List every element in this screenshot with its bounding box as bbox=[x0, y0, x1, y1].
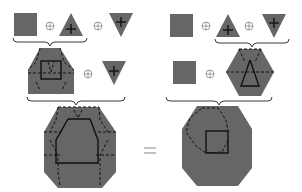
brace-right-row1 bbox=[215, 39, 289, 47]
triangle-down-shape-right bbox=[262, 14, 286, 38]
oplus-icon bbox=[94, 22, 102, 30]
square-shape-right bbox=[170, 14, 193, 37]
oplus-icon bbox=[245, 22, 253, 30]
equals-sign bbox=[144, 148, 156, 153]
triangle-down-shape-left bbox=[109, 13, 133, 37]
square-shape-right-row2 bbox=[173, 61, 196, 84]
square-shape-left bbox=[14, 13, 37, 36]
brace-right-row2 bbox=[166, 97, 272, 105]
octagon-shape-left bbox=[44, 107, 116, 188]
triangle-up-shape-right bbox=[216, 14, 240, 37]
brace-left-row1 bbox=[13, 38, 87, 46]
oplus-icon bbox=[202, 22, 210, 30]
oplus-icon bbox=[206, 70, 214, 78]
triangle-up-shape-left bbox=[59, 13, 83, 36]
brace-left-row2 bbox=[27, 97, 125, 105]
minkowski-diagram bbox=[0, 0, 302, 192]
oplus-icon bbox=[84, 70, 92, 78]
heptagon-shape-left bbox=[28, 48, 74, 94]
oplus-icon bbox=[46, 22, 54, 30]
octagon-shape-right bbox=[182, 106, 252, 186]
triangle-down-shape-left-row2 bbox=[102, 61, 126, 85]
hexagon-shape-right bbox=[226, 49, 274, 96]
